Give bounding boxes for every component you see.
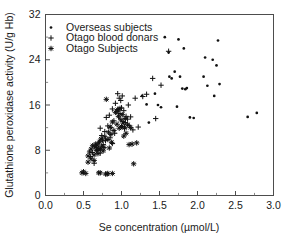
data-point	[182, 47, 185, 50]
data-point	[150, 76, 155, 81]
data-point	[107, 145, 112, 150]
data-point	[98, 170, 103, 175]
data-point	[126, 102, 131, 107]
data-point	[117, 106, 122, 111]
data-point	[98, 125, 103, 130]
data-point	[136, 124, 141, 129]
x-axis-ticks	[46, 191, 274, 196]
data-point	[111, 128, 116, 133]
data-point	[163, 36, 166, 39]
data-point	[104, 97, 109, 102]
x-tick-label: 0.5	[76, 199, 91, 211]
x-axis-title: Se concentration (µmol/L)	[99, 221, 219, 233]
data-point	[213, 95, 216, 98]
data-point	[120, 112, 125, 117]
data-point	[83, 171, 88, 176]
x-tick-label: 2.0	[190, 199, 205, 211]
legend-marker-plus-icon	[48, 35, 53, 40]
data-point	[202, 75, 205, 78]
data-point	[177, 38, 180, 41]
x-axis-tick-labels: 0.00.51.01.52.02.53.0	[38, 199, 281, 211]
data-point	[179, 75, 182, 78]
x-tick-label: 1.0	[114, 199, 129, 211]
data-point	[108, 132, 113, 137]
scatter-plot-figure: 0.00.51.01.52.02.53.0 08162432 Se concen…	[0, 0, 289, 240]
y-tick-label: 8	[35, 144, 41, 156]
data-point	[166, 49, 171, 54]
data-point	[158, 83, 163, 88]
data-point	[154, 92, 157, 95]
data-point	[211, 58, 214, 61]
legend-item: Otago Subjects	[48, 42, 137, 54]
y-axis-ticks	[46, 15, 51, 196]
x-tick-label: 1.5	[152, 199, 167, 211]
data-point	[246, 116, 249, 119]
data-point	[85, 153, 90, 158]
data-point	[123, 116, 128, 121]
y-tick-label: 16	[29, 99, 41, 111]
legend-label: Otago Subjects	[66, 42, 138, 54]
y-tick-label: 32	[29, 8, 41, 20]
data-point	[168, 75, 171, 78]
y-axis-title: Glutathione peroxidase activity (U/g Hb)	[3, 12, 15, 198]
data-point	[132, 96, 137, 101]
data-point	[109, 140, 114, 145]
x-tick-label: 2.5	[228, 199, 243, 211]
data-point	[105, 137, 110, 142]
data-point	[131, 161, 136, 166]
series-star	[79, 97, 139, 177]
data-points-layer	[79, 36, 258, 177]
data-point	[110, 171, 115, 176]
y-tick-label: 0	[35, 189, 41, 201]
data-point	[129, 141, 134, 146]
data-point	[189, 116, 192, 119]
legend-marker-dot-icon	[50, 26, 53, 29]
data-point	[255, 112, 258, 115]
data-point	[128, 125, 133, 130]
data-point	[186, 87, 189, 90]
data-point	[160, 106, 163, 109]
data-point	[176, 105, 179, 108]
data-point	[148, 121, 151, 124]
chart-legend: Overseas subjectsOtago blood donarsOtago…	[48, 21, 158, 54]
legend-marker-star-icon	[48, 46, 53, 51]
data-point	[170, 77, 173, 80]
data-point	[217, 39, 220, 42]
data-point	[145, 103, 148, 106]
x-tick-label: 3.0	[266, 199, 281, 211]
data-point	[218, 83, 221, 86]
y-axis-tick-labels: 08162432	[29, 8, 41, 201]
data-point	[113, 101, 118, 106]
data-point	[206, 84, 209, 87]
series-dot	[141, 36, 258, 124]
data-point	[204, 56, 207, 59]
data-point	[134, 140, 139, 145]
data-point	[123, 131, 128, 136]
data-point	[215, 64, 218, 67]
chart-canvas: 0.00.51.01.52.02.53.0 08162432 Se concen…	[0, 0, 289, 240]
data-point	[181, 87, 184, 90]
data-point	[192, 117, 195, 120]
data-point	[173, 70, 176, 73]
y-tick-label: 24	[29, 53, 41, 65]
data-point	[157, 104, 160, 107]
data-point	[101, 145, 106, 150]
data-point	[153, 116, 158, 121]
